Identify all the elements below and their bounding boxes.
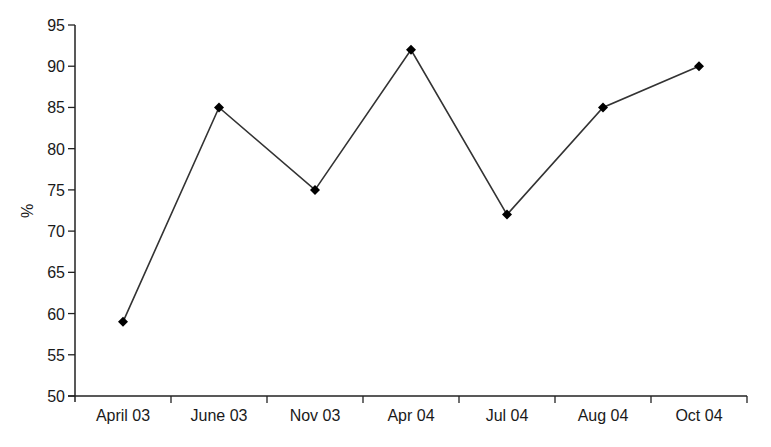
series-line [123,50,699,322]
y-tick-label: 75 [47,182,65,199]
y-tick-label: 60 [47,306,65,323]
chart-canvas: 50556065707580859095 April 03June 03Nov … [0,0,771,447]
x-tick-label: Oct 04 [675,407,722,424]
plot-area [118,45,704,327]
y-axis-label: % [19,204,36,218]
x-tick-label: April 03 [96,407,150,424]
diamond-marker-icon [118,317,128,327]
y-tick-label: 80 [47,141,65,158]
x-tick-label: June 03 [191,407,248,424]
x-tick-label: Nov 03 [290,407,341,424]
y-tick-label: 55 [47,347,65,364]
x-tick-label: Jul 04 [486,407,529,424]
y-tick-label: 95 [47,17,65,34]
y-tick-label: 90 [47,58,65,75]
y-tick-label: 70 [47,223,65,240]
diamond-marker-icon [406,45,416,55]
y-axis: 50556065707580859095 [47,17,75,405]
line-chart: 50556065707580859095 April 03June 03Nov … [0,0,771,447]
x-tick-label: Apr 04 [387,407,434,424]
x-axis: April 03June 03Nov 03Apr 04Jul 04Aug 04O… [68,396,747,424]
y-tick-label: 50 [47,388,65,405]
y-tick-label: 65 [47,264,65,281]
diamond-marker-icon [694,61,704,71]
y-tick-label: 85 [47,99,65,116]
x-tick-label: Aug 04 [578,407,629,424]
